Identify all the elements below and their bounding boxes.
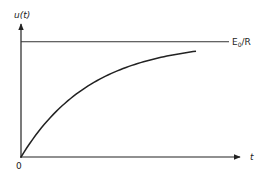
series-line-u xyxy=(21,51,196,157)
asymptote-label-rest: /R xyxy=(242,37,251,47)
x-axis-label: t xyxy=(250,152,254,162)
chart: u(t) t 0 E0/R xyxy=(0,0,262,174)
origin-label: 0 xyxy=(16,161,22,171)
asymptote-label: E0/R xyxy=(232,37,251,48)
y-axis-label: u(t) xyxy=(14,10,30,20)
